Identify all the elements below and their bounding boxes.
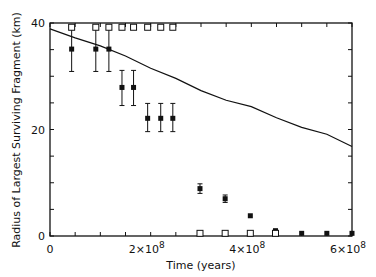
x-tick-label: 0 — [47, 243, 54, 256]
x-axis-label: Time (years) — [165, 259, 235, 272]
filled-marker — [158, 116, 163, 121]
x-tick-exponent: 8 — [360, 240, 366, 250]
y-axis-label: Radius of Largest Surviving Fragment (km… — [10, 12, 23, 248]
chart: 02×1084×1086×10802040 Time (years) Radiu… — [0, 0, 376, 277]
filled-marker — [299, 231, 304, 236]
open-square-marker — [106, 24, 112, 30]
plot-frame — [50, 23, 352, 236]
filled-marker — [119, 85, 124, 90]
x-tick-label: 4×108 — [229, 240, 265, 256]
plot-border — [50, 23, 352, 236]
errorbar-series — [69, 29, 354, 236]
filled-marker — [248, 213, 253, 218]
open-square-marker — [247, 230, 253, 236]
filled-marker — [350, 231, 355, 236]
curve-line — [50, 29, 352, 147]
y-tick-label: 0 — [38, 230, 45, 243]
filled-marker — [145, 116, 150, 121]
open-square-series — [69, 24, 279, 236]
filled-marker — [93, 47, 98, 52]
open-square-marker — [222, 230, 228, 236]
curve-series — [50, 29, 352, 147]
filled-marker — [197, 186, 202, 191]
x-tick-exponent: 8 — [260, 240, 266, 250]
open-square-marker — [131, 24, 137, 30]
y-tick-label: 40 — [31, 17, 45, 30]
open-square-marker — [272, 230, 278, 236]
open-square-marker — [197, 230, 203, 236]
axis-ticks: 02×1084×1086×10802040 — [31, 17, 366, 256]
x-tick-exponent: 8 — [159, 240, 165, 250]
filled-marker — [170, 116, 175, 121]
filled-marker — [69, 47, 74, 52]
open-square-marker — [145, 24, 151, 30]
open-square-marker — [69, 24, 75, 30]
open-square-marker — [93, 24, 99, 30]
filled-marker — [324, 231, 329, 236]
filled-marker — [131, 85, 136, 90]
y-tick-label: 20 — [31, 124, 45, 137]
open-square-marker — [170, 24, 176, 30]
open-square-marker — [119, 24, 125, 30]
filled-marker — [106, 47, 111, 52]
x-tick-label: 6×108 — [330, 240, 366, 256]
open-square-marker — [158, 24, 164, 30]
x-tick-label: 2×108 — [129, 240, 165, 256]
filled-marker — [223, 196, 228, 201]
